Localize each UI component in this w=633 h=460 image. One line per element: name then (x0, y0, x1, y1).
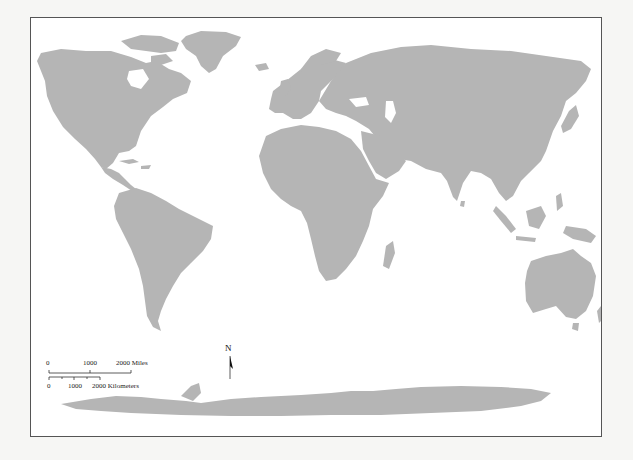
tasmania (572, 323, 579, 331)
australia (525, 249, 596, 319)
world-map (31, 18, 602, 437)
borneo (526, 206, 546, 229)
south-america (114, 188, 213, 331)
scale-km-1000: 1000 (68, 382, 82, 390)
scale-km-2000: 2000 Kilometers (92, 382, 139, 390)
scale-bar (49, 370, 131, 380)
central-america (101, 167, 136, 191)
java (516, 236, 536, 242)
new-zealand (597, 306, 602, 323)
caribbean-islands (119, 159, 151, 169)
madagascar (383, 241, 395, 269)
scale-miles-0: 0 (46, 359, 50, 367)
philippines (556, 193, 563, 211)
north-arrow-icon (230, 356, 233, 379)
iceland (255, 63, 269, 71)
sumatra (493, 206, 516, 233)
japan (561, 105, 579, 133)
north-america (37, 49, 191, 169)
antarctica (61, 386, 551, 416)
map-frame (30, 17, 602, 437)
antarctic-peninsula (181, 383, 201, 401)
scale-km-0: 0 (47, 382, 51, 390)
sri-lanka (460, 201, 465, 207)
arctic-islands (121, 35, 179, 53)
north-label: N (225, 343, 232, 353)
new-guinea (563, 226, 596, 243)
scale-miles-1000: 1000 (83, 359, 97, 367)
scale-miles-2000: 2000 Miles (116, 359, 148, 367)
greenland (181, 31, 241, 73)
